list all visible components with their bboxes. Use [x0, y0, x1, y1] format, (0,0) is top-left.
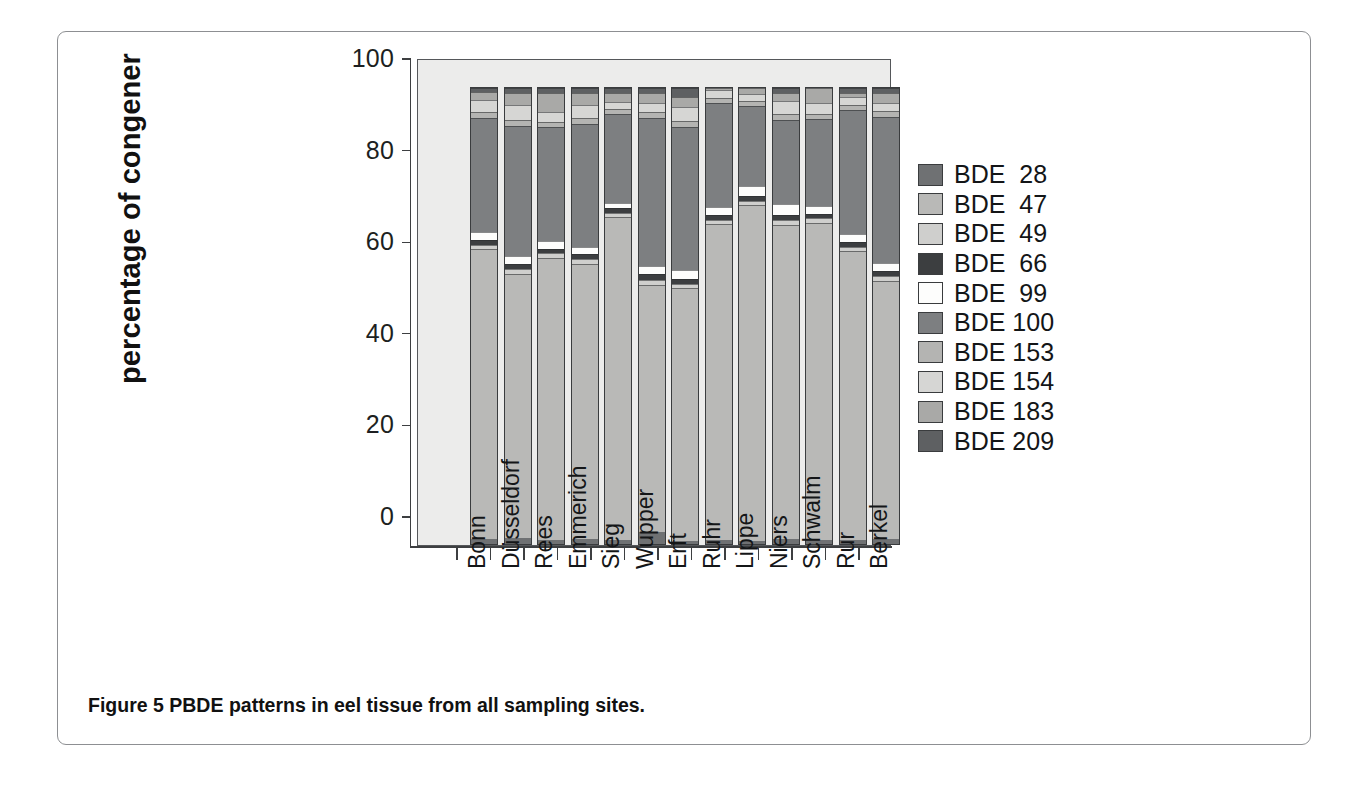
x-axis-tick — [691, 547, 692, 560]
bar-segment — [873, 117, 899, 263]
legend-item[interactable]: BDE 100 — [918, 308, 1054, 338]
legend-item[interactable]: BDE 153 — [918, 338, 1054, 368]
plot-area — [417, 59, 891, 546]
bar-segment — [572, 93, 598, 106]
legend-item[interactable]: BDE 49 — [918, 219, 1054, 249]
x-axis-tick — [758, 547, 759, 560]
y-axis-tick-label: 60 — [336, 229, 394, 254]
bar-segment — [873, 93, 899, 103]
legend-swatch-icon — [918, 312, 943, 334]
legend-label: BDE 100 — [954, 310, 1054, 335]
figure-page: percentage of congener 020406080100 Bonn… — [0, 0, 1364, 790]
x-axis-tick-label: Sieg — [600, 523, 623, 569]
bar-segment — [505, 126, 531, 256]
bar-segment — [806, 119, 832, 206]
bar-sieg[interactable] — [604, 87, 632, 545]
x-axis-tick-label: Berkel — [868, 504, 891, 569]
bar-berkel[interactable] — [872, 87, 900, 545]
bar-segment — [773, 225, 799, 539]
legend-label: BDE 154 — [954, 369, 1054, 394]
bar-segment — [505, 105, 531, 121]
bar-segment — [639, 93, 665, 103]
bar-segment — [605, 102, 631, 109]
bar-segment — [706, 207, 732, 215]
bar-segment — [538, 241, 564, 248]
bar-segment — [806, 206, 832, 214]
bar-segment — [806, 103, 832, 114]
bar-segment — [538, 258, 564, 541]
x-axis-tick-label: Rur — [835, 532, 858, 569]
legend-swatch-icon — [918, 341, 943, 363]
x-axis-tick-label: Erft — [667, 533, 690, 569]
legend-label: BDE 183 — [954, 399, 1054, 424]
bar-segment — [840, 251, 866, 540]
x-axis-tick-label: Düsseldorf — [500, 459, 523, 569]
bar-segment — [572, 247, 598, 255]
legend-item[interactable]: BDE 154 — [918, 367, 1054, 397]
bar-segment — [605, 93, 631, 102]
bar-segment — [605, 217, 631, 540]
y-axis-line — [410, 59, 411, 547]
bar-segment — [706, 90, 732, 99]
legend-label: BDE 28 — [954, 162, 1047, 187]
bar-segment — [739, 94, 765, 101]
bar-segment — [706, 224, 732, 539]
legend-item[interactable]: BDE 99 — [918, 278, 1054, 308]
bar-segment — [672, 288, 698, 541]
legend-label: BDE 49 — [954, 221, 1047, 246]
x-axis-tick — [791, 547, 792, 560]
bar-segment — [840, 97, 866, 105]
y-axis-tick — [402, 150, 411, 151]
x-axis-tick — [657, 547, 658, 560]
bar-segment — [873, 103, 899, 111]
legend-item[interactable]: BDE 47 — [918, 190, 1054, 220]
bar-lippe[interactable] — [738, 87, 766, 545]
bar-segment — [505, 93, 531, 105]
bar-segment — [706, 103, 732, 207]
bar-segment — [605, 114, 631, 203]
bar-segment — [672, 97, 698, 107]
legend-swatch-icon — [918, 430, 943, 452]
bar-segment — [739, 106, 765, 186]
x-axis-tick — [557, 547, 558, 560]
chart-legend: BDE 28BDE 47BDE 49BDE 66BDE 99BDE 100BDE… — [918, 160, 1054, 456]
bar-rees[interactable] — [537, 87, 565, 545]
bar-segment — [505, 256, 531, 264]
bar-wupper[interactable] — [638, 87, 666, 545]
bar-segment — [672, 88, 698, 97]
x-axis-tick — [590, 547, 591, 560]
bar-segment — [773, 93, 799, 101]
bar-segment — [672, 270, 698, 279]
x-axis-tick-label: Schwalm — [801, 476, 824, 569]
y-axis-title: percentage of congener — [114, 24, 147, 414]
legend-label: BDE 209 — [954, 429, 1054, 454]
bar-segment — [739, 205, 765, 541]
bar-erft[interactable] — [671, 87, 699, 545]
x-axis-tick-label: Bonn — [466, 515, 489, 569]
bar-rur[interactable] — [839, 87, 867, 545]
bar-segment — [471, 118, 497, 232]
legend-item[interactable]: BDE 209 — [918, 426, 1054, 456]
legend-item[interactable]: BDE 28 — [918, 160, 1054, 190]
x-axis-tick-label: Emmerich — [567, 465, 590, 569]
bar-bonn[interactable] — [470, 87, 498, 545]
caption-label: Figure 5 — [88, 694, 164, 716]
bar-segment — [773, 120, 799, 204]
bar-segment — [806, 88, 832, 103]
bar-ruhr[interactable] — [705, 87, 733, 545]
y-axis-tick — [402, 242, 411, 243]
legend-swatch-icon — [918, 223, 943, 245]
legend-item[interactable]: BDE 66 — [918, 249, 1054, 279]
legend-item[interactable]: BDE 183 — [918, 397, 1054, 427]
bar-niers[interactable] — [772, 87, 800, 545]
bar-segment — [471, 232, 497, 240]
x-axis-tick-label: Lippe — [734, 513, 757, 569]
x-axis-tick — [825, 547, 826, 560]
bar-segment — [739, 186, 765, 196]
bar-segment — [471, 100, 497, 112]
legend-swatch-icon — [918, 164, 943, 186]
legend-label: BDE 99 — [954, 281, 1047, 306]
bar-segment — [572, 124, 598, 247]
bar-segment — [639, 266, 665, 274]
x-axis-tick — [624, 547, 625, 560]
